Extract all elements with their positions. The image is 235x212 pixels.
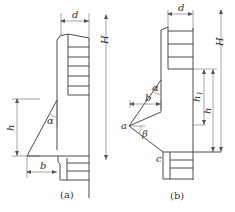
- label-alpha: α: [47, 115, 54, 126]
- wall-outline-top: [57, 34, 89, 198]
- label-h: h: [202, 108, 213, 114]
- wall-outline-top: [161, 27, 193, 111]
- label-h: h: [5, 125, 16, 131]
- diagram-svg: d H α h: [0, 0, 235, 212]
- lower-block-outline: [163, 152, 193, 179]
- beta-arc: [139, 126, 141, 133]
- label-b: b: [145, 92, 151, 103]
- label-b: b: [40, 160, 46, 171]
- label-d: d: [72, 9, 78, 20]
- label-d: d: [178, 2, 184, 13]
- label-a: a: [121, 120, 127, 131]
- caption-b: (b): [170, 190, 184, 201]
- slope-line-a: [27, 100, 57, 156]
- lower-block-outline: [58, 156, 89, 180]
- figure-a: d H α h: [5, 9, 110, 200]
- figure-b: d H h1 h α: [121, 2, 225, 201]
- label-H: H: [214, 37, 225, 47]
- caption-a: (a): [60, 189, 74, 200]
- label-H: H: [99, 35, 110, 45]
- label-alpha: α: [152, 82, 159, 93]
- diagram-canvas: d H α h: [0, 0, 235, 212]
- label-c: c: [156, 153, 162, 164]
